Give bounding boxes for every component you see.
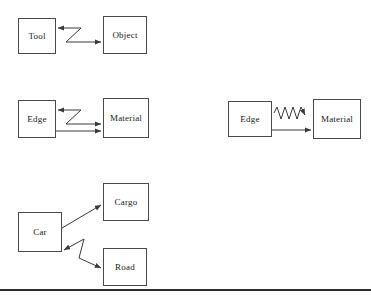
connector-edge-material-zigzag bbox=[58, 110, 101, 124]
connector-car-road-zigzag bbox=[64, 239, 101, 268]
node-edge-right-label: Edge bbox=[240, 115, 259, 124]
diagram-canvas: Tool Object Edge Material Edge Material … bbox=[0, 0, 371, 297]
node-tool: Tool bbox=[18, 18, 56, 54]
node-road-label: Road bbox=[115, 263, 135, 272]
connector-tool-object-zigzag bbox=[58, 28, 101, 42]
node-tool-label: Tool bbox=[28, 32, 45, 41]
node-material-left: Material bbox=[103, 98, 149, 138]
node-car-label: Car bbox=[33, 228, 47, 237]
node-road: Road bbox=[103, 248, 147, 286]
connector-edge-material-wave bbox=[274, 107, 305, 119]
connector-car-cargo-arrow bbox=[62, 205, 101, 228]
node-material-right: Material bbox=[313, 99, 361, 139]
node-edge-left: Edge bbox=[18, 100, 56, 138]
node-edge-left-label: Edge bbox=[27, 115, 46, 124]
node-car: Car bbox=[18, 212, 62, 252]
node-object: Object bbox=[103, 16, 147, 54]
node-edge-right: Edge bbox=[228, 101, 272, 137]
node-object-label: Object bbox=[112, 31, 137, 40]
bottom-rule bbox=[0, 289, 371, 291]
node-cargo-label: Cargo bbox=[115, 198, 138, 207]
node-material-right-label: Material bbox=[321, 115, 353, 124]
node-material-left-label: Material bbox=[110, 114, 142, 123]
node-cargo: Cargo bbox=[103, 183, 149, 221]
